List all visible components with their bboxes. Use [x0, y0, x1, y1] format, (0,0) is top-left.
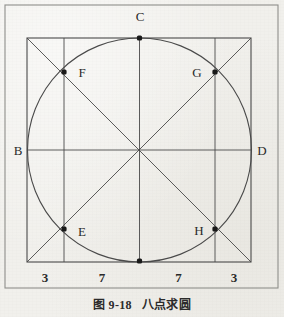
dimension-label-0: 3: [42, 270, 49, 285]
point-marker-E: [61, 226, 66, 231]
point-marker-F: [61, 69, 66, 74]
point-marker-A: [137, 258, 142, 263]
point-marker-C: [137, 35, 142, 40]
figure-caption: 图 9-18八点求圆: [0, 295, 284, 313]
figure-frame: [5, 5, 278, 288]
point-marker-G: [212, 69, 217, 74]
caption-title: 八点求圆: [142, 298, 191, 312]
point-label-B: B: [14, 143, 23, 158]
dimension-labels: 3773: [42, 270, 238, 285]
point-label-G: G: [192, 65, 201, 80]
point-marker-H: [212, 226, 217, 231]
figure-container: BCDFGEH 3773 图 9-18八点求圆: [0, 0, 284, 317]
caption-number: 图 9-18: [93, 298, 132, 312]
eight-point-circle-diagram: BCDFGEH 3773: [0, 0, 284, 317]
point-labels: BCDFGEH: [14, 9, 267, 239]
point-label-D: D: [257, 143, 266, 158]
dimension-label-2: 7: [175, 270, 182, 285]
dimension-label-1: 7: [99, 270, 106, 285]
dimension-label-3: 3: [231, 270, 238, 285]
point-label-C: C: [136, 9, 145, 24]
point-label-F: F: [78, 65, 85, 80]
point-label-H: H: [194, 223, 203, 238]
point-label-E: E: [78, 224, 86, 239]
